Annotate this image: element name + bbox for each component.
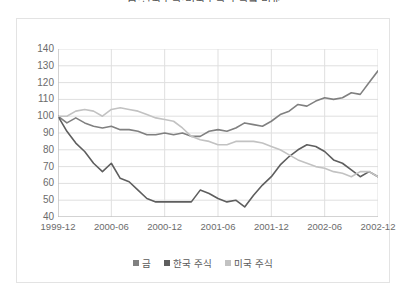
legend-item[interactable]: 미국 주식 [225,259,273,269]
y-axis-tick-label: 60 [43,178,54,188]
x-axis-tick-label: 2000-06 [94,222,129,232]
x-axis-tick-label: 2001-12 [254,222,289,232]
y-axis-tick-label: 140 [37,44,54,54]
y-axis-tick-label: 70 [43,162,54,172]
legend-swatch-icon [133,260,139,266]
legend-item[interactable]: 금 [133,259,151,269]
legend-swatch-icon [225,260,231,266]
x-axis-tick-label: 2002-12 [361,222,396,232]
legend-item-label: 한국 주식 [173,259,212,269]
legend-item[interactable]: 한국 주식 [164,259,212,269]
plot-area: 405060708090100110120130140 1999-122000-… [58,49,378,217]
x-axis-tick-label: 2001-06 [201,222,236,232]
legend-swatch-icon [164,260,170,266]
y-axis-tick-label: 110 [38,94,54,104]
chart-container: 405060708090100110120130140 1999-122000-… [16,18,390,283]
chart-legend: 금한국 주식미국 주식 [17,259,389,269]
y-axis-tick-label: 80 [43,145,54,155]
chart-svg [58,49,378,217]
y-axis-tick-label: 130 [37,61,54,71]
y-axis-tick-label: 100 [37,111,54,121]
y-axis-tick-label: 120 [37,78,54,88]
x-axis-tick-label: 2000-12 [147,222,182,232]
y-axis-tick-label: 50 [43,195,54,205]
y-axis-tick-label: 90 [43,128,54,138]
x-axis-tick-label: 2002-06 [307,222,342,232]
x-axis-tick-label: 1999-12 [41,222,76,232]
legend-item-label: 금 [142,259,151,269]
legend-item-label: 미국 주식 [234,259,273,269]
page-title: 금·한국주식·미국주식 수익률 비교 [0,0,408,2]
